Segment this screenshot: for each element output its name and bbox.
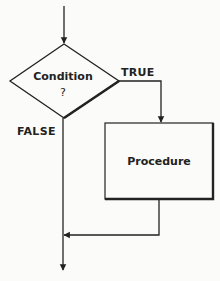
process-label: Procedure [127,155,191,168]
false-branch-connector: FALSE [17,118,63,270]
decision-label: Condition [33,70,93,83]
false-label: FALSE [17,125,56,138]
true-label: TRUE [121,66,155,79]
process-node: Procedure [105,123,213,199]
decision-sublabel: ? [60,86,66,99]
true-branch-connector: TRUE [119,66,161,122]
return-connector [64,200,159,235]
decision-node: Condition ? [10,44,119,118]
flowchart-diagram: Condition ? TRUE FALSE Procedure [0,0,220,281]
